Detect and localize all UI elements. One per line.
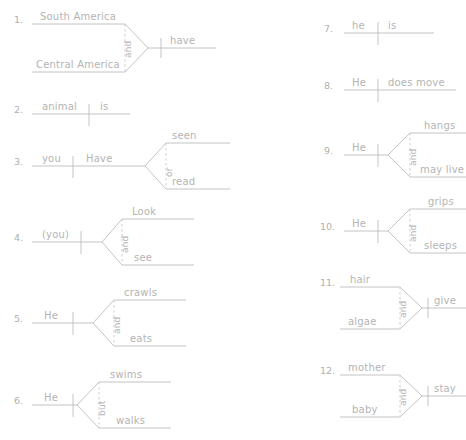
d12-subject-1: mother <box>348 362 386 373</box>
diagram-number-3: 3. <box>14 156 23 167</box>
d11-predicate: give <box>434 295 456 306</box>
d10-subject: He <box>352 218 366 229</box>
d4-subject: (you) <box>42 229 69 240</box>
diagram-number-11: 11. <box>320 277 335 288</box>
diagram-number-7: 7. <box>324 23 333 34</box>
d2-subject: animal <box>42 101 77 112</box>
d6-predicate-2: walks <box>116 415 145 426</box>
diagram-number-4: 4. <box>14 232 23 243</box>
d7-subject: he <box>352 20 365 31</box>
d4-predicate-2: see <box>134 252 152 263</box>
d5-subject: He <box>44 310 58 321</box>
d4-predicate-1: Look <box>132 206 156 217</box>
diagram-number-2: 2. <box>14 104 23 115</box>
d9-subject: He <box>352 142 366 153</box>
diagram-number-8: 8. <box>324 80 333 91</box>
d5-predicate-1: crawls <box>124 287 157 298</box>
d6-subject: He <box>44 392 58 403</box>
d6-predicate-1: swims <box>110 369 142 380</box>
diagram-number-10: 10. <box>320 221 335 232</box>
d1-subject-1: South America <box>40 11 116 22</box>
d11-subject-1: hair <box>350 274 370 285</box>
d12-subject-2: baby <box>352 404 378 415</box>
worksheet-sheet: 1. South America Central America and hav… <box>0 0 466 440</box>
diagram-number-9: 9. <box>324 145 333 156</box>
diagram-number-6: 6. <box>14 395 23 406</box>
d3-predicate-2: read <box>172 176 195 187</box>
d3-verb: Have <box>86 153 113 164</box>
d1-subject-2: Central America <box>36 59 120 70</box>
d5-conjunction: and <box>112 316 122 334</box>
d11-subject-2: algae <box>348 316 377 327</box>
d6-conjunction: but <box>97 400 107 416</box>
d2-predicate: is <box>100 101 108 112</box>
d12-predicate: stay <box>434 383 456 394</box>
d3-predicate-1: seen <box>172 130 197 141</box>
d1-predicate: have <box>170 35 195 46</box>
d9-predicate-1: hangs <box>424 120 455 131</box>
d9-conjunction: and <box>408 148 418 166</box>
d7-predicate: is <box>388 20 396 31</box>
d5-predicate-2: eats <box>130 333 152 344</box>
d10-conjunction: and <box>408 224 418 242</box>
d1-conjunction: and <box>123 40 133 58</box>
d9-predicate-2: may live <box>420 164 464 175</box>
d4-conjunction: and <box>120 235 130 253</box>
d8-predicate: does move <box>388 77 445 88</box>
diagram-number-1: 1. <box>14 14 23 25</box>
d11-conjunction: and <box>398 300 408 318</box>
d3-subject: you <box>42 153 61 164</box>
d8-subject: He <box>352 77 366 88</box>
diagram-number-5: 5. <box>14 313 23 324</box>
d12-conjunction: and <box>398 388 408 406</box>
d10-predicate-2: sleeps <box>424 240 457 251</box>
d10-predicate-1: grips <box>428 196 454 207</box>
diagram-number-12: 12. <box>320 365 335 376</box>
